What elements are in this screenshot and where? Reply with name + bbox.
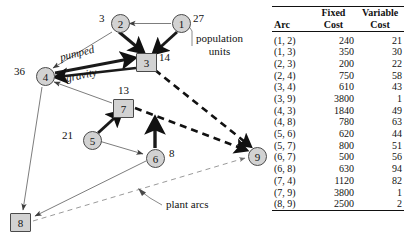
node-2-label: 2: [118, 18, 124, 30]
arc-6-8: [35, 161, 146, 216]
arc-5-6: [99, 141, 143, 154]
cost-table-head: Fixed Variable Arc Cost Cost: [272, 7, 404, 32]
cell-variable-cost: 82: [356, 175, 404, 187]
cell-variable-cost: 51: [356, 140, 404, 152]
cell-fixed-cost: 610: [311, 81, 356, 93]
cell-arc: (1, 2): [272, 35, 311, 47]
node-3-label: 3: [144, 57, 150, 69]
node-4[interactable]: 4: [36, 67, 55, 86]
node-7-supply: 13: [118, 84, 129, 96]
cell-arc: (7, 9): [272, 187, 311, 199]
cell-fixed-cost: 780: [311, 116, 356, 128]
cell-fixed-cost: 800: [311, 140, 356, 152]
cell-arc: (4, 8): [272, 116, 311, 128]
cell-arc: (5, 6): [272, 128, 311, 140]
header-fixed-line2: Cost: [311, 19, 356, 31]
node-2[interactable]: 2: [111, 14, 130, 33]
cell-fixed-cost: 3800: [311, 187, 356, 199]
cell-variable-cost: 21: [356, 35, 404, 47]
cell-variable-cost: 44: [356, 128, 404, 140]
table-row: (6, 7)50056: [272, 151, 404, 163]
header-arc: Arc: [272, 19, 311, 31]
cell-arc: (1, 3): [272, 46, 311, 58]
cell-variable-cost: 58: [356, 70, 404, 82]
arc-7-9-plant: [135, 108, 246, 150]
table-row: (7, 9)38001: [272, 187, 404, 199]
cell-arc: (5, 7): [272, 140, 311, 152]
cell-variable-cost: 63: [356, 116, 404, 128]
node-9[interactable]: 9: [248, 147, 267, 166]
table-row: (2, 4)75058: [272, 70, 404, 82]
node-5-supply: 21: [62, 129, 73, 141]
table-row: (1, 3)35030: [272, 46, 404, 58]
node-1-supply: 27: [193, 12, 204, 24]
cell-fixed-cost: 500: [311, 151, 356, 163]
table-row: (3, 4)61043: [272, 81, 404, 93]
cell-fixed-cost: 1840: [311, 105, 356, 117]
cell-fixed-cost: 750: [311, 70, 356, 82]
cell-fixed-cost: 200: [311, 58, 356, 70]
cell-fixed-cost: 2500: [311, 198, 356, 210]
table-row: (8, 9)25002: [272, 198, 404, 210]
cell-variable-cost: 22: [356, 58, 404, 70]
table-row: (2, 3)20022: [272, 58, 404, 70]
cell-variable-cost: 56: [356, 151, 404, 163]
node-2-supply: 3: [99, 12, 105, 24]
arc-7-4: [54, 82, 112, 103]
table-row: (4, 8)78063: [272, 116, 404, 128]
arc-4-8: [23, 87, 42, 210]
cell-arc: (3, 4): [272, 81, 311, 93]
header-variable-line1: Variable: [356, 7, 404, 19]
table-row: (5, 6)62044: [272, 128, 404, 140]
header-fixed-line1: Fixed: [311, 7, 356, 19]
cell-variable-cost: 1: [356, 93, 404, 105]
node-1[interactable]: 1: [172, 14, 191, 33]
annotation-plant-arcs: plant arcs: [166, 198, 208, 211]
node-5[interactable]: 5: [83, 131, 102, 150]
annotation-population-units: population units: [196, 32, 243, 57]
annotation-population-units-line2: units: [196, 45, 243, 58]
node-5-label: 5: [90, 135, 96, 147]
node-6-label: 6: [153, 153, 159, 165]
table-row: (7, 4)112082: [272, 175, 404, 187]
cell-arc: (6, 8): [272, 163, 311, 175]
annotation-population-units-line1: population: [196, 32, 243, 45]
node-9-label: 9: [255, 151, 261, 163]
cell-fixed-cost: 630: [311, 163, 356, 175]
node-3[interactable]: 3: [136, 53, 157, 72]
cell-variable-cost: 94: [356, 163, 404, 175]
node-8-label: 8: [18, 217, 24, 229]
cell-arc: (8, 9): [272, 198, 311, 210]
cell-arc: (2, 4): [272, 70, 311, 82]
cell-fixed-cost: 620: [311, 128, 356, 140]
table-row: (3, 9)38001: [272, 93, 404, 105]
node-7[interactable]: 7: [113, 99, 134, 118]
cost-table-container: Fixed Variable Arc Cost Cost (1, 2)24021…: [272, 6, 404, 211]
cell-variable-cost: 49: [356, 105, 404, 117]
node-6[interactable]: 6: [146, 149, 165, 168]
node-4-label: 4: [43, 71, 49, 83]
figure-network-and-cost-table: 1 27 2 3 3 14 4 36 5 21 6 8 7 13 8 9: [0, 0, 408, 242]
table-row: (4, 3)184049: [272, 105, 404, 117]
node-8[interactable]: 8: [10, 213, 31, 232]
cell-arc: (6, 7): [272, 151, 311, 163]
arc-1-3: [154, 32, 177, 53]
cell-arc: (7, 4): [272, 175, 311, 187]
cell-fixed-cost: 3800: [311, 93, 356, 105]
table-row: (5, 7)80051: [272, 140, 404, 152]
header-variable-line2: Cost: [356, 19, 404, 31]
annotation-plant-arcs-line1: plant arcs: [166, 198, 208, 211]
node-7-label: 7: [121, 103, 127, 115]
cell-arc: (3, 9): [272, 93, 311, 105]
cost-table: Fixed Variable Arc Cost Cost (1, 2)24021…: [272, 6, 404, 211]
cell-arc: (4, 3): [272, 105, 311, 117]
leader-plant-arcs: [138, 188, 162, 205]
header-spacer-arc: [272, 7, 311, 19]
cell-fixed-cost: 350: [311, 46, 356, 58]
table-header-row-bottom: Arc Cost Cost: [272, 19, 404, 31]
cell-variable-cost: 1: [356, 187, 404, 199]
arc-2-3: [119, 32, 143, 52]
network-diagram: 1 27 2 3 3 14 4 36 5 21 6 8 7 13 8 9: [0, 0, 268, 242]
node-3-supply: 14: [159, 51, 170, 63]
node-1-label: 1: [179, 18, 185, 30]
